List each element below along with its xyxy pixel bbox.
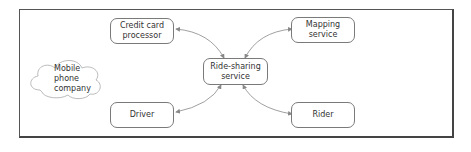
node-rider: Rider — [291, 102, 355, 128]
node-driver: Driver — [110, 102, 174, 128]
node-credit-card-processor: Credit card processor — [110, 18, 174, 44]
node-mapping-service: Mapping service — [291, 17, 355, 43]
node-mobile-phone-company: Mobile phone company — [54, 64, 91, 94]
node-ride-sharing-service: Ride-sharing service — [203, 58, 268, 85]
